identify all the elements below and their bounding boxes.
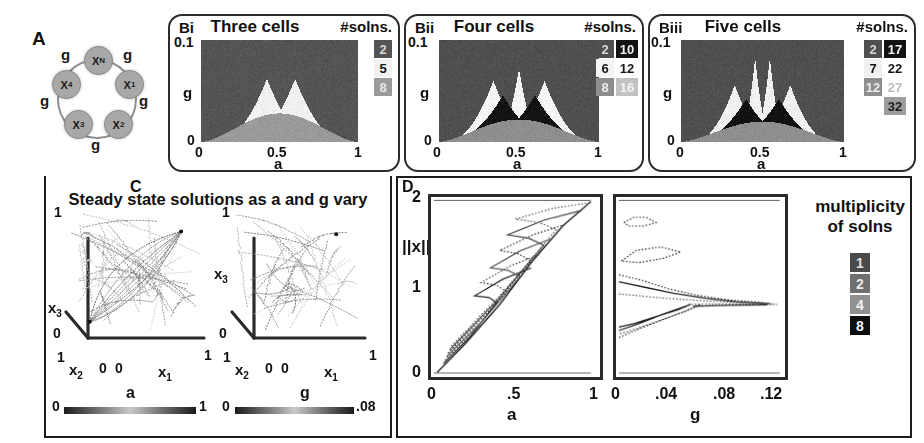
node-xn: XN bbox=[84, 46, 113, 75]
panel-d-left-plot bbox=[428, 194, 603, 380]
panel-d-y-tick-0: 0 bbox=[412, 363, 421, 381]
panel-bi-legend-swatch-2: 2 bbox=[374, 40, 392, 58]
panel-c-plot-a-x2-name: x2 bbox=[69, 361, 83, 381]
node-xn-sub: N bbox=[99, 56, 105, 65]
panel-bi-legend-swatch-8: 8 bbox=[374, 78, 392, 96]
node-x2-sub: 2 bbox=[120, 120, 124, 129]
edge-label-g-1: g bbox=[61, 46, 70, 63]
node-x3: X3 bbox=[64, 110, 93, 139]
panel-d-right-x-tick-2: .08 bbox=[713, 385, 735, 403]
panel-c-colorbar-a-name: a bbox=[126, 384, 135, 402]
panel-bi-x-tick-1: 1 bbox=[354, 144, 362, 160]
panel-c-colorbar-a-max: 1 bbox=[199, 398, 207, 414]
panel-biii-legend-swatch-27: 27 bbox=[884, 78, 906, 96]
panel-d-legend-title: multiplicity of solns bbox=[800, 197, 920, 236]
panel-d-y-tick-2: 2 bbox=[412, 188, 421, 206]
panel-bii-heatmap bbox=[439, 40, 599, 142]
panel-biii-title: Five cells bbox=[670, 17, 816, 37]
panel-biii-legend-swatch-32: 32 bbox=[884, 97, 906, 115]
panel-d-left-x-name: a bbox=[507, 405, 516, 425]
node-x4-label: X bbox=[61, 79, 68, 91]
panel-bii-x-tick-0: 0 bbox=[433, 144, 441, 160]
panel-d-y-label: ||x|| bbox=[402, 237, 430, 257]
panel-biii-legend-swatch-2: 2 bbox=[864, 40, 882, 58]
panel-bi-y-name: g bbox=[183, 84, 192, 101]
panel-c-plot-a-x1-zero: 0 bbox=[115, 360, 123, 376]
panel-c-plot-g bbox=[226, 208, 391, 380]
panel-bi-legend-column: 2 5 8 bbox=[374, 40, 392, 96]
panel-d-right-x-tick-3: .12 bbox=[760, 385, 782, 403]
edge-label-g-2: g bbox=[123, 46, 132, 63]
panel-bii-x-tick-1: 1 bbox=[594, 144, 602, 160]
panel-c-plot-g-x2-name: x2 bbox=[235, 361, 249, 381]
figure-root: A XN X1 X2 X3 X4 g g g g g g bbox=[0, 0, 924, 443]
panel-c-title: Steady state solutions as a and g vary bbox=[52, 190, 384, 209]
edge-label-g-5: g bbox=[40, 92, 49, 109]
panel-biii-legend-column-2: 17 22 27 32 bbox=[884, 40, 906, 115]
edge-label-g-3: g bbox=[139, 92, 148, 109]
panel-biii-legend-swatch-7: 7 bbox=[864, 59, 882, 77]
panel-d-right-plot bbox=[613, 194, 788, 380]
panel-d-left-x-tick-mid: .5 bbox=[507, 385, 520, 403]
panel-c-plot-a-z-name: x3 bbox=[48, 299, 62, 319]
panel-d-legend-swatch-4: 4 bbox=[850, 295, 870, 314]
panel-c-plot-g-z-zero: 0 bbox=[219, 325, 227, 341]
panel-d-right-x-tick-0: 0 bbox=[611, 385, 620, 403]
node-x3-sub: 3 bbox=[80, 120, 84, 129]
panel-bi-y-max: 0.1 bbox=[174, 34, 193, 50]
panel-bii: Bii Four cells #solns. 0.1 g 0 0 0.5 1 a… bbox=[404, 14, 644, 172]
panel-bii-legend-swatch-12: 12 bbox=[616, 59, 638, 77]
panel-c-plot-a-x2-zero: 0 bbox=[99, 360, 107, 376]
panel-c-plot-a-x1-max: 1 bbox=[204, 347, 212, 363]
panel-biii: Biii Five cells #solns. 0.1 g 0 0 0.5 1 … bbox=[648, 14, 916, 172]
panel-a: A XN X1 X2 X3 X4 g g g g g g bbox=[0, 0, 172, 172]
panel-biii-legend-swatch-12: 12 bbox=[864, 78, 882, 96]
panel-biii-heatmap bbox=[681, 40, 844, 142]
node-x1-label: X bbox=[124, 79, 131, 91]
panel-c-colorbar-a-gradient bbox=[64, 407, 196, 414]
panel-c-colorbar-g-gradient bbox=[235, 407, 354, 414]
panel-d-y-tick-1: 1 bbox=[412, 278, 421, 296]
panel-biii-y-max: 0.1 bbox=[651, 34, 670, 50]
panel-bi-x-name: a bbox=[274, 155, 282, 172]
panel-c-plot-g-x1-zero: 0 bbox=[281, 360, 289, 376]
panel-c-colorbar-a-min: 0 bbox=[52, 398, 60, 414]
panel-c-plot-a-x2-max: 1 bbox=[57, 349, 65, 365]
panel-bii-legend-column-2: 10 12 16 bbox=[616, 40, 638, 96]
panel-bii-x-name: a bbox=[513, 155, 521, 172]
panel-bii-legend-swatch-16: 16 bbox=[616, 78, 638, 96]
panel-d-legend-swatch-8: 8 bbox=[850, 316, 870, 335]
panel-d-left-x-tick-0: 0 bbox=[427, 385, 436, 403]
panel-biii-legend-swatch-22: 22 bbox=[884, 59, 906, 77]
panel-c-plot-g-x2-zero: 0 bbox=[265, 360, 273, 376]
panel-biii-legend: 2 7 12 17 22 27 32 bbox=[864, 40, 906, 115]
panel-bii-y-name: g bbox=[420, 84, 429, 101]
panel-d-right-x-tick-1: .04 bbox=[655, 385, 677, 403]
panel-d-legend: 1 2 4 8 bbox=[850, 253, 870, 335]
node-x2: X2 bbox=[104, 110, 133, 139]
panel-bii-legend-column-1: 2 6 8 bbox=[596, 40, 614, 96]
panel-c-plot-g-x1-name: x1 bbox=[324, 363, 338, 383]
panel-d-legend-swatch-2: 2 bbox=[850, 274, 870, 293]
node-x3-label: X bbox=[73, 119, 80, 131]
panel-bi-title: Three cells bbox=[190, 17, 320, 37]
panel-c-colorbar-g-min: 0 bbox=[222, 398, 230, 414]
panel-biii-y-name: g bbox=[663, 84, 672, 101]
edge-label-g-4: g bbox=[91, 136, 100, 153]
panel-c-plot-a-z-zero: 0 bbox=[53, 325, 61, 341]
panel-c-plot-a-z-max: 1 bbox=[54, 204, 62, 220]
panel-biii-x-name: a bbox=[757, 155, 765, 172]
panel-biii-x-tick-0: 0 bbox=[676, 144, 684, 160]
panel-c-plot-g-x2-max: 1 bbox=[223, 349, 231, 365]
panel-d-legend-swatch-1: 1 bbox=[850, 253, 870, 272]
panel-bii-solns-header: #solns. bbox=[584, 18, 636, 35]
panel-c-plot-g-x1-max: 1 bbox=[369, 347, 377, 363]
node-x4: X4 bbox=[52, 70, 81, 99]
node-xn-label: X bbox=[92, 55, 99, 67]
panel-bii-legend-swatch-6: 6 bbox=[596, 59, 614, 77]
panel-c-colorbar-g-name: g bbox=[300, 384, 310, 402]
panel-bi-solns-header: #solns. bbox=[340, 18, 392, 35]
panel-c-plot-g-z-name: x3 bbox=[214, 265, 228, 285]
panel-bi-y-min: 0 bbox=[187, 132, 195, 148]
panel-biii-legend-swatch-17: 17 bbox=[884, 40, 906, 58]
